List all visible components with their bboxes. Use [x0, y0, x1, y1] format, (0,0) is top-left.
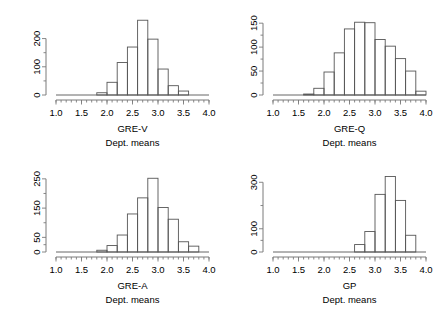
- histogram-bar: [395, 200, 405, 252]
- histogram-bar: [168, 86, 178, 95]
- histogram-panel-gre-q: 0501001501.01.52.02.53.03.54.0GRE-QDept.…: [217, 0, 434, 157]
- x-tick-label: 2.0: [317, 107, 330, 118]
- histogram-panel-gre-v: 01002001.01.52.02.53.03.54.0GRE-VDept. m…: [0, 0, 217, 157]
- y-axis: [259, 23, 263, 95]
- x-tick-label: 3.5: [394, 107, 407, 118]
- y-tick-label: 300: [248, 174, 259, 190]
- x-tick-label: 2.5: [126, 107, 139, 118]
- histogram-bar: [97, 250, 107, 252]
- histogram-bar: [334, 53, 344, 95]
- histogram-bar: [416, 91, 426, 95]
- x-axis-label: GRE-Q: [334, 123, 365, 134]
- x-axis: [273, 257, 426, 262]
- histogram-bar: [127, 47, 137, 95]
- x-tick-label: 2.0: [317, 264, 330, 275]
- x-axis-sublabel: Dept. means: [323, 137, 377, 148]
- histogram-bar: [395, 59, 405, 95]
- x-axis-sublabel: Dept. means: [323, 294, 377, 305]
- y-tick-label: 150: [248, 15, 259, 31]
- y-tick-label: 0: [31, 92, 42, 97]
- x-tick-label: 1.0: [266, 264, 279, 275]
- x-tick-label: 2.5: [126, 264, 139, 275]
- y-tick-label: 250: [31, 171, 42, 187]
- x-tick-label: 4.0: [419, 107, 432, 118]
- histogram-panel-gre-a: 0501502501.01.52.02.53.03.54.0GRE-ADept.…: [0, 157, 217, 314]
- histogram-bar: [158, 69, 168, 95]
- y-tick-label: 0: [248, 249, 259, 254]
- histogram-bar: [117, 235, 127, 252]
- x-tick-label: 1.5: [292, 107, 305, 118]
- x-tick-label: 1.0: [49, 107, 62, 118]
- x-tick-label: 1.5: [75, 264, 88, 275]
- y-tick-label: 100: [248, 39, 259, 55]
- histogram-bar: [178, 242, 188, 252]
- histogram-bars: [273, 22, 426, 95]
- x-tick-label: 1.5: [75, 107, 88, 118]
- histogram-bar: [406, 71, 416, 95]
- histogram-bar: [97, 93, 107, 95]
- histogram-panel-grid: 01002001.01.52.02.53.03.54.0GRE-VDept. m…: [0, 0, 434, 314]
- histogram-bar: [117, 63, 127, 95]
- histogram-bar: [324, 72, 334, 95]
- histogram-bar: [138, 198, 148, 252]
- histogram-bar: [375, 39, 385, 95]
- y-tick-label: 200: [31, 31, 42, 47]
- x-tick-label: 2.0: [100, 264, 113, 275]
- y-axis: [42, 179, 46, 252]
- histogram-bar: [344, 29, 354, 95]
- x-tick-label: 1.0: [266, 107, 279, 118]
- histogram-bars: [56, 20, 209, 95]
- histogram-bar: [365, 23, 375, 95]
- histogram-bar: [148, 39, 158, 95]
- y-axis: [42, 39, 46, 95]
- x-axis: [56, 257, 209, 262]
- histogram-bar: [406, 235, 416, 252]
- x-axis-label: GRE-A: [117, 280, 148, 291]
- x-axis: [56, 100, 209, 105]
- histogram-bar: [304, 94, 314, 95]
- histogram-bar: [355, 245, 365, 252]
- histogram-bar: [158, 208, 168, 252]
- x-tick-label: 1.0: [49, 264, 62, 275]
- x-tick-label: 4.0: [419, 264, 432, 275]
- y-tick-label: 100: [248, 221, 259, 237]
- y-tick-label: 100: [31, 59, 42, 75]
- x-tick-label: 3.5: [177, 264, 190, 275]
- histogram-bar: [375, 194, 385, 252]
- histogram-bar: [189, 246, 199, 252]
- histogram-bar: [355, 22, 365, 95]
- x-tick-label: 3.0: [151, 107, 164, 118]
- x-tick-label: 3.0: [368, 107, 381, 118]
- y-tick-label: 50: [31, 232, 42, 243]
- histogram-panel-gp: 01003001.01.52.02.53.03.54.0GPDept. mean…: [217, 157, 434, 314]
- histogram-bar: [127, 214, 137, 252]
- x-axis-label: GP: [343, 280, 357, 291]
- x-tick-label: 3.0: [151, 264, 164, 275]
- x-tick-label: 4.0: [202, 264, 215, 275]
- y-tick-label: 50: [248, 66, 259, 77]
- x-tick-label: 2.5: [343, 264, 356, 275]
- x-axis-sublabel: Dept. means: [106, 137, 160, 148]
- histogram-bar: [178, 91, 188, 95]
- histogram-bars: [273, 176, 426, 252]
- y-tick-label: 150: [31, 200, 42, 216]
- x-tick-label: 3.5: [394, 264, 407, 275]
- x-tick-label: 3.5: [177, 107, 190, 118]
- x-tick-label: 2.5: [343, 107, 356, 118]
- histogram-bar: [138, 20, 148, 95]
- histogram-bars: [56, 178, 209, 252]
- histogram-bar: [314, 88, 324, 95]
- x-axis: [273, 100, 426, 105]
- x-tick-label: 4.0: [202, 107, 215, 118]
- x-axis-sublabel: Dept. means: [106, 294, 160, 305]
- x-tick-label: 2.0: [100, 107, 113, 118]
- histogram-bar: [107, 82, 117, 95]
- y-axis: [259, 182, 263, 252]
- x-tick-label: 3.0: [368, 264, 381, 275]
- histogram-bar: [148, 178, 158, 252]
- histogram-bar: [107, 246, 117, 252]
- histogram-bar: [365, 232, 375, 252]
- histogram-bar: [168, 219, 178, 252]
- y-tick-label: 0: [248, 92, 259, 97]
- x-tick-label: 1.5: [292, 264, 305, 275]
